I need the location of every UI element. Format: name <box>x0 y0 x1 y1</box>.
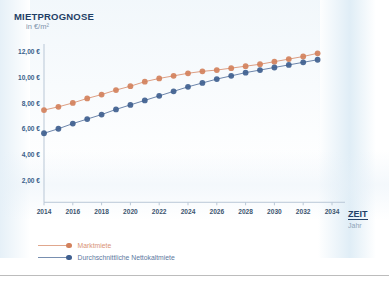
chart-legend: MarktmieteDurchschnittliche Nettokaltmie… <box>38 240 338 264</box>
x-axis-tick-label: 2026 <box>209 208 224 215</box>
x-axis-tick-label: 2016 <box>65 208 80 215</box>
x-axis-tick-label: 2028 <box>238 208 253 215</box>
x-axis-tick-label: 2022 <box>152 208 167 215</box>
x-axis-title-unit: Jahr <box>348 221 368 230</box>
x-axis-tick-label: 2020 <box>123 208 138 215</box>
legend-line-swatch <box>38 257 68 258</box>
bottom-divider <box>0 275 389 276</box>
x-axis-tick-label: 2030 <box>267 208 282 215</box>
legend-line-swatch <box>38 245 68 246</box>
mietprognose-chart-figure: MIETPROGNOSE in €/m² 2,00 €4,00 €6,00 €8… <box>0 0 389 284</box>
legend-label: Marktmiete <box>78 242 112 249</box>
x-axis-tick-label: 2018 <box>94 208 109 215</box>
x-axis-tick-label: 2032 <box>296 208 311 215</box>
x-axis-tick-label: 2014 <box>37 208 52 215</box>
legend-label: Durchschnittliche Nettokaltmiete <box>78 254 175 261</box>
x-axis-title-block: ZEIT Jahr <box>348 203 368 230</box>
x-axis-tick-label: 2034 <box>325 208 340 215</box>
x-axis-title: ZEIT <box>348 209 368 220</box>
x-axis-tick-label: 2024 <box>181 208 196 215</box>
legend-item[interactable]: Marktmiete <box>38 240 338 251</box>
legend-item[interactable]: Durchschnittliche Nettokaltmiete <box>38 252 338 263</box>
